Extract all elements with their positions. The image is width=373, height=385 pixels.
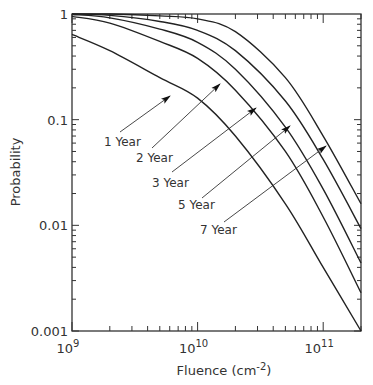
x-tick-label: 1010 bbox=[179, 338, 208, 356]
axis-ticks: 10.10.010.00110910101011 bbox=[31, 7, 361, 356]
y-tick-label: 0.1 bbox=[47, 113, 68, 128]
series-label: 1 Year bbox=[104, 135, 141, 149]
annotation-arrow bbox=[224, 146, 326, 222]
y-tick-label: 0.001 bbox=[31, 324, 68, 339]
series-label: 5 Year bbox=[178, 198, 215, 212]
series-label: 7 Year bbox=[200, 223, 237, 237]
series-label: 2 Year bbox=[136, 151, 173, 165]
y-axis-title: Probability bbox=[8, 137, 23, 206]
x-axis-title: Fluence (cm-2) bbox=[177, 361, 272, 378]
y-tick-label: 1 bbox=[60, 7, 68, 22]
annotation-arrow bbox=[202, 126, 290, 198]
x-tick-label: 1011 bbox=[305, 338, 334, 356]
series-line-7-year bbox=[72, 14, 361, 204]
series-curves bbox=[72, 14, 361, 331]
plot-border bbox=[72, 14, 361, 331]
annotation-arrow bbox=[120, 96, 170, 132]
series-line-5-year bbox=[72, 14, 361, 229]
annotation-arrow bbox=[152, 84, 220, 148]
series-line-2-year bbox=[72, 16, 361, 292]
probability-vs-fluence-chart: 10.10.010.00110910101011 1 Year2 Year3 Y… bbox=[0, 0, 373, 385]
y-tick-label: 0.01 bbox=[39, 218, 68, 233]
x-tick-label: 109 bbox=[57, 338, 80, 356]
plot-frame bbox=[72, 14, 361, 331]
series-line-1-year bbox=[72, 34, 361, 331]
series-label: 3 Year bbox=[152, 176, 189, 190]
